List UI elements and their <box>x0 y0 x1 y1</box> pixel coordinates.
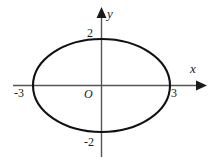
tick-label-x-positive-3: 3 <box>171 87 177 99</box>
tick-label-x-negative-3: -3 <box>14 87 24 99</box>
x-axis-arrow-icon <box>196 81 207 91</box>
coordinate-plane-svg <box>0 0 220 166</box>
origin-label: O <box>84 88 93 100</box>
y-axis-label: y <box>107 7 113 20</box>
tick-label-y-negative-2: -2 <box>84 136 94 148</box>
y-axis-arrow-icon <box>97 7 107 18</box>
ellipse-figure: y x 2 -2 -3 3 O <box>0 0 220 166</box>
tick-label-y-positive-2: 2 <box>87 27 93 39</box>
x-axis-label: x <box>190 62 196 75</box>
